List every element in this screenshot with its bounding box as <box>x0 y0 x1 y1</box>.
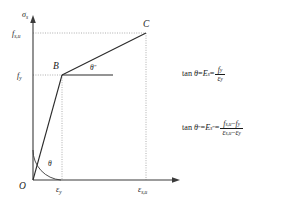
eq1-denominator: εy <box>215 75 224 83</box>
eq1-tan: tan <box>182 69 192 78</box>
eq1-equals-2: = <box>210 69 215 78</box>
theta-double-prime-angle-label: θ″ <box>90 63 97 72</box>
point-label-c: C <box>143 19 150 29</box>
y-tick-label-fy: fy <box>17 71 22 81</box>
x-tick-label-epsy: εy <box>56 185 62 195</box>
y-axis-label: σs <box>22 10 28 20</box>
eq2-fraction: fs,u−fy εs,u−εy <box>220 120 243 137</box>
y-axis-arrow-icon <box>30 15 36 23</box>
y-tick-label-fsu: fs,u <box>12 29 21 39</box>
x-axis-arrow-icon <box>172 177 180 183</box>
origin-label: O <box>19 181 26 191</box>
eq1-fraction: fy εy <box>215 66 224 83</box>
equation-tan-theta: tan θ=Es= fy εy <box>182 66 226 83</box>
stress-strain-diagram: σs O B C fs,u fy εy εs,u θ θ″ tan θ=Es= … <box>0 0 285 209</box>
eq2-tan: tan <box>182 123 192 132</box>
point-label-b: B <box>53 61 59 71</box>
equation-tan-theta-double-prime: tan θ″=Es″= fs,u−fy εs,u−εy <box>182 120 244 137</box>
theta-angle-arc <box>33 150 61 180</box>
diagram-canvas: σs O B C fs,u fy εy εs,u θ θ″ <box>0 0 285 209</box>
hardening-branch-line <box>62 33 146 75</box>
x-tick-label-epssu: εs,u <box>138 185 148 195</box>
eq2-equals-2: = <box>215 123 220 132</box>
theta-angle-label: θ <box>48 159 52 168</box>
eq2-denominator: εs,u−εy <box>220 129 243 137</box>
